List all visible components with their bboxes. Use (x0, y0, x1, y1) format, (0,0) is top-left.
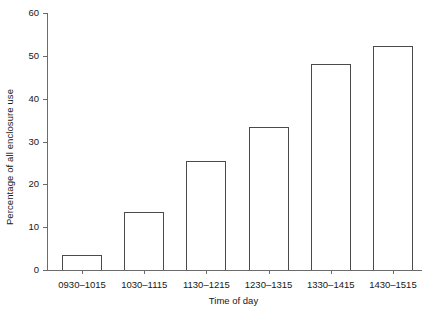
y-tick-60: 60 (0, 13, 47, 14)
bar (311, 64, 351, 270)
x-tick-label: 1030–1115 (114, 279, 174, 290)
y-tick-label: 30 (28, 135, 39, 148)
x-tick-3: 1230–1315 (269, 270, 270, 271)
x-tick-1: 1030–1115 (144, 270, 145, 271)
y-tick-label: 0 (34, 263, 39, 276)
bar-chart-figure: Percentage of all enclosure use 01020304… (0, 0, 440, 314)
x-tick-mark (269, 270, 270, 274)
y-tick-mark (43, 270, 47, 271)
y-tick-20: 20 (0, 184, 47, 185)
y-axis-title: Percentage of all enclosure use (0, 0, 18, 314)
y-tick-label: 20 (28, 177, 39, 190)
bar (249, 127, 289, 270)
x-axis-line (47, 270, 422, 271)
x-tick-label: 1330–1415 (301, 279, 361, 290)
x-tick-0: 0930–1015 (82, 270, 83, 271)
x-tick-mark (393, 270, 394, 274)
bar (124, 212, 164, 270)
bar (186, 161, 226, 270)
x-tick-2: 1130–1215 (206, 270, 207, 271)
x-tick-mark (331, 270, 332, 274)
x-tick-label: 1130–1215 (176, 279, 236, 290)
x-tick-label: 1230–1315 (239, 279, 299, 290)
x-tick-4: 1330–1415 (331, 270, 332, 271)
x-tick-label: 0930–1015 (52, 279, 112, 290)
plot-area (47, 13, 420, 270)
x-tick-mark (82, 270, 83, 274)
y-tick-label: 40 (28, 92, 39, 105)
y-tick-40: 40 (0, 99, 47, 100)
bar (373, 46, 413, 270)
x-axis-title: Time of day (47, 295, 420, 306)
x-tick-label: 1430–1515 (363, 279, 423, 290)
y-tick-label: 60 (28, 6, 39, 19)
y-tick-0: 0 (0, 270, 47, 271)
x-tick-mark (206, 270, 207, 274)
y-tick-10: 10 (0, 227, 47, 228)
y-tick-50: 50 (0, 56, 47, 57)
y-tick-label: 10 (28, 220, 39, 233)
x-tick-mark (144, 270, 145, 274)
bar (62, 255, 102, 270)
y-tick-label: 50 (28, 49, 39, 62)
y-tick-30: 30 (0, 142, 47, 143)
x-tick-5: 1430–1515 (393, 270, 394, 271)
